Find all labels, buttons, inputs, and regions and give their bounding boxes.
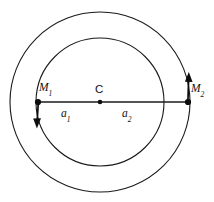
- distance-a2-label: a2: [122, 108, 132, 120]
- body-m2-label: M2: [191, 83, 204, 95]
- center-of-mass-dot: [98, 100, 103, 105]
- center-of-mass-label: C: [95, 84, 103, 96]
- body-m1-label: M1: [39, 82, 52, 94]
- distance-a1-label: a1: [61, 108, 71, 120]
- two-body-orbit-diagram: M1 M2 C a1 a2: [0, 0, 214, 202]
- diagram-canvas: [0, 0, 214, 202]
